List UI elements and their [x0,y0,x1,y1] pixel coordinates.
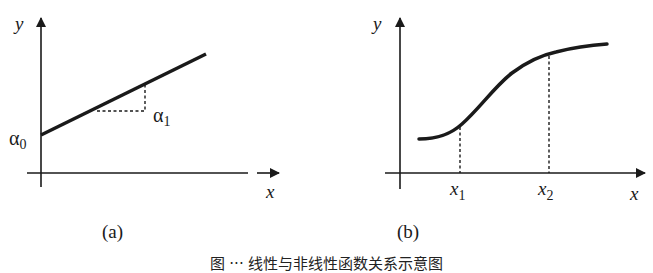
panel-label-b: (b) [397,221,419,243]
panel-label-a: (a) [102,221,123,243]
linear-line [41,54,206,135]
x1-label: x1 [449,178,465,203]
intercept-label: α0 [9,127,26,152]
panel-b: y x x1 x2 [371,13,645,204]
x2-label: x2 [537,178,553,203]
panel-a-x-arrow: x [257,173,279,202]
sigmoid-curve [419,44,607,139]
panel-a: y α0 α1 [9,13,248,187]
y-axis-label: y [371,13,382,34]
slope-label: α1 [153,104,170,129]
y-axis-label: y [13,13,24,34]
x-axis-label-b: x [629,183,639,204]
figure-caption: 图 ··· 线性与非线性函数关系示意图 [0,252,653,273]
x-axis-label-a: x [265,181,275,202]
